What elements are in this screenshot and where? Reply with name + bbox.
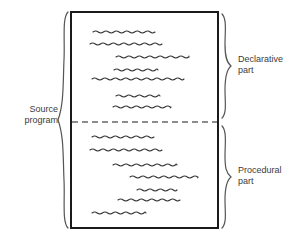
declarative-part-brace xyxy=(222,14,231,118)
source-program-label: Source program xyxy=(4,104,58,125)
declarative-part-label: Declarative part xyxy=(238,54,300,75)
procedural-part-brace xyxy=(222,126,231,228)
source-program-diagram: Source program Declarative part Procedur… xyxy=(0,0,302,239)
program-box xyxy=(71,12,218,228)
procedural-part-label: Procedural part xyxy=(238,165,300,186)
source-program-brace xyxy=(58,12,68,228)
